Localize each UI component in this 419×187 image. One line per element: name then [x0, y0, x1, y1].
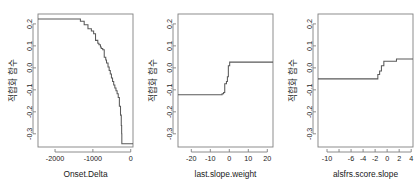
plot-svg: 0.20.10.0-0.1-0.2-0.3-10-6-4-2024alsfrs.…	[280, 0, 419, 187]
plot-svg: 0.20.10.0-0.1-0.2-0.3-2000-10000Onset.De…	[0, 0, 140, 187]
x-tick-label: -20	[186, 154, 196, 163]
plot-frame	[178, 14, 273, 147]
x-axis: -10-6-4-2024	[322, 149, 413, 163]
data-curve	[178, 62, 273, 95]
plot-frame	[318, 14, 413, 147]
y-axis-title: 적합화 함수	[147, 59, 158, 101]
x-tick-label: -6	[348, 154, 354, 163]
plot-panel-alsfrs-score-slope: 0.20.10.0-0.1-0.2-0.3-10-6-4-2024alsfrs.…	[280, 0, 419, 187]
y-axis-title: 적합화 함수	[287, 59, 298, 101]
y-tick-label: 0.1	[306, 41, 315, 51]
x-tick-label: -2000	[46, 154, 64, 163]
data-curve	[38, 19, 133, 144]
plot-panel-last-slope-weight: 0.20.10.0-0.1-0.2-0.3-20-1001020last.slo…	[140, 0, 280, 187]
y-axis-title: 적합화 함수	[7, 59, 18, 101]
y-axis: 0.20.10.0-0.1-0.2-0.3	[166, 19, 177, 140]
x-axis-title: Onset.Delta	[63, 169, 108, 179]
y-axis: 0.20.10.0-0.1-0.2-0.3	[25, 19, 36, 140]
x-tick-label: 0	[385, 154, 389, 163]
x-tick-label: 0	[227, 154, 231, 163]
y-tick-label: 0.2	[166, 19, 175, 29]
x-tick-label: -2	[372, 154, 378, 163]
x-tick-label: 0	[129, 154, 133, 163]
x-tick-label: 20	[263, 154, 271, 163]
x-axis: -2000-10000	[46, 149, 133, 163]
x-tick-label: -4	[360, 154, 366, 163]
x-tick-label: 10	[244, 154, 252, 163]
y-tick-label: -0.2	[306, 106, 315, 118]
y-tick-label: -0.1	[306, 84, 315, 96]
y-tick-label: -0.3	[306, 128, 315, 140]
x-axis-title: alsfrs.score.slope	[333, 169, 399, 179]
x-tick-label: -10	[205, 154, 215, 163]
y-axis: 0.20.10.0-0.1-0.2-0.3	[306, 19, 317, 140]
y-tick-label: 0.0	[166, 63, 175, 73]
y-tick-label: -0.3	[26, 128, 35, 140]
x-axis-title: last.slope.weight	[195, 169, 258, 179]
y-tick-label: -0.1	[26, 84, 35, 96]
y-tick-label: 0.2	[25, 19, 34, 29]
y-tick-label: 0.2	[306, 19, 315, 29]
x-tick-label: 4	[409, 154, 413, 163]
plot-svg: 0.20.10.0-0.1-0.2-0.3-20-1001020last.slo…	[140, 0, 280, 187]
partial-dependence-figure: 0.20.10.0-0.1-0.2-0.3-2000-10000Onset.De…	[0, 0, 419, 187]
y-tick-label: 0.0	[26, 63, 35, 73]
x-tick-label: 2	[397, 154, 401, 163]
plot-panel-onset-delta: 0.20.10.0-0.1-0.2-0.3-2000-10000Onset.De…	[0, 0, 140, 187]
x-axis: -20-1001020	[186, 149, 271, 163]
x-tick-label: -10	[322, 154, 332, 163]
y-tick-label: 0.1	[166, 41, 175, 51]
y-tick-label: -0.2	[166, 106, 175, 118]
data-curve	[318, 59, 413, 79]
y-tick-label: -0.2	[26, 106, 35, 118]
y-tick-label: -0.3	[166, 128, 175, 140]
y-tick-label: 0.0	[306, 63, 315, 73]
x-tick-label: -1000	[84, 154, 102, 163]
plot-frame	[38, 14, 133, 147]
y-tick-label: 0.1	[26, 41, 35, 51]
y-tick-label: -0.1	[166, 84, 175, 96]
